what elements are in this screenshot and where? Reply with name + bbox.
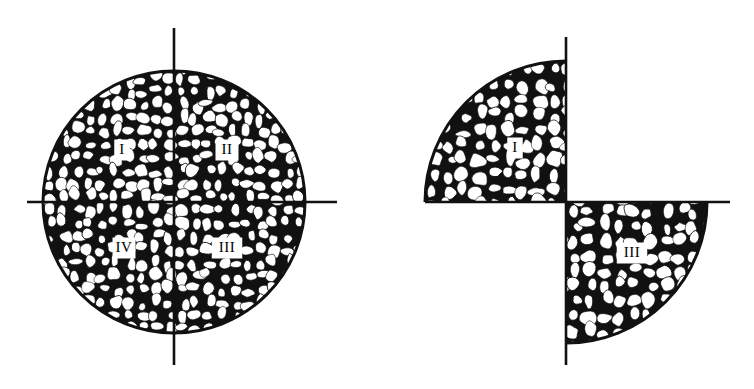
texture-grain — [413, 140, 423, 151]
texture-grain — [484, 224, 499, 240]
texture-grain — [295, 48, 307, 62]
texture-grain — [428, 81, 440, 97]
texture-grain — [704, 254, 713, 262]
texture-grain — [203, 340, 217, 349]
texture-grain — [626, 350, 637, 364]
texture-grain — [297, 85, 305, 99]
texture-grain — [325, 281, 334, 297]
texture-grain — [59, 327, 67, 334]
texture-grain — [572, 352, 587, 367]
texture-grain — [19, 298, 30, 311]
texture-grain — [583, 187, 597, 201]
texture-grain — [318, 203, 331, 214]
texture-grain — [397, 153, 407, 163]
texture-grain — [718, 307, 729, 323]
texture-grain — [30, 176, 43, 188]
texture-grain — [718, 188, 733, 202]
texture-grain — [248, 230, 255, 241]
texture-grain — [32, 313, 45, 324]
texture-grain — [472, 172, 487, 186]
texture-grain — [323, 229, 332, 236]
texture-grain — [85, 142, 96, 149]
texture-grain — [87, 48, 97, 57]
texture-grain — [202, 46, 214, 59]
texture-grain — [546, 215, 561, 228]
texture-grain — [311, 151, 320, 165]
texture-grain — [444, 78, 462, 94]
texture-grain — [32, 74, 41, 81]
texture-grain — [429, 110, 447, 124]
texture-grain — [429, 91, 438, 108]
texture-grain — [152, 60, 160, 68]
texture-grain — [630, 307, 640, 320]
texture-grain — [541, 308, 551, 320]
texture-grain — [670, 334, 682, 350]
texture-grain — [448, 68, 458, 80]
texture-grain — [319, 60, 329, 69]
texture-grain — [207, 165, 216, 174]
texture-grain — [287, 168, 294, 178]
texture-grain — [57, 350, 68, 360]
texture-grain — [475, 141, 485, 150]
texture-grain — [672, 190, 681, 198]
texture-grain — [401, 216, 413, 226]
texture-grain — [58, 46, 71, 58]
texture-grain — [734, 368, 749, 378]
texture-grain — [43, 140, 52, 152]
texture-grain — [244, 260, 251, 271]
texture-grain — [35, 164, 45, 177]
texture-grain — [722, 374, 732, 385]
texture-grain — [570, 254, 580, 264]
texture-grain — [690, 325, 702, 338]
texture-grain — [313, 140, 321, 151]
texture-grain — [500, 37, 510, 46]
texture-grain — [305, 190, 319, 201]
texture-grain — [45, 327, 54, 336]
quadrant-label-q1: I — [119, 141, 125, 157]
texture-grain — [629, 263, 642, 272]
texture-grain — [135, 91, 147, 99]
texture-grain — [297, 348, 311, 357]
texture-grain — [638, 369, 654, 383]
texture-grain — [71, 347, 79, 358]
texture-grain — [233, 274, 243, 285]
texture-grain — [400, 121, 411, 135]
pinwheel-section-svg: IIII — [380, 0, 754, 389]
texture-grain — [30, 96, 43, 105]
texture-grain — [71, 301, 84, 310]
texture-grain — [551, 63, 560, 73]
texture-grain — [549, 247, 562, 261]
texture-grain — [318, 71, 331, 79]
texture-grain — [596, 125, 607, 135]
texture-grain — [468, 48, 483, 57]
texture-grain — [664, 305, 674, 321]
texture-grain — [320, 243, 332, 254]
texture-grain — [214, 205, 223, 213]
texture-grain — [125, 57, 135, 65]
texture-grain — [94, 334, 106, 346]
texture-grain — [613, 372, 625, 384]
texture-grain — [268, 168, 280, 178]
texture-grain — [18, 219, 26, 228]
texture-grain — [242, 339, 249, 348]
texture-grain — [326, 297, 334, 307]
texture-grain — [182, 299, 190, 311]
texture-grain — [515, 30, 527, 43]
texture-grain — [232, 49, 246, 60]
texture-grain — [319, 88, 332, 101]
texture-grain — [736, 251, 748, 260]
panel-full-section: IIIIIIIV — [0, 0, 380, 389]
texture-grain — [307, 283, 321, 298]
texture-grain — [136, 352, 149, 365]
texture-grain — [307, 75, 320, 88]
texture-grain — [591, 106, 604, 121]
quadrant-label-q3: III — [624, 244, 641, 260]
texture-grain — [294, 61, 304, 71]
texture-grain — [730, 345, 745, 354]
texture-grain — [280, 82, 291, 96]
texture-grain — [719, 325, 731, 335]
texture-grain — [31, 324, 46, 337]
texture-grain — [650, 351, 659, 366]
texture-grain — [583, 355, 593, 364]
texture-grain — [427, 218, 438, 229]
